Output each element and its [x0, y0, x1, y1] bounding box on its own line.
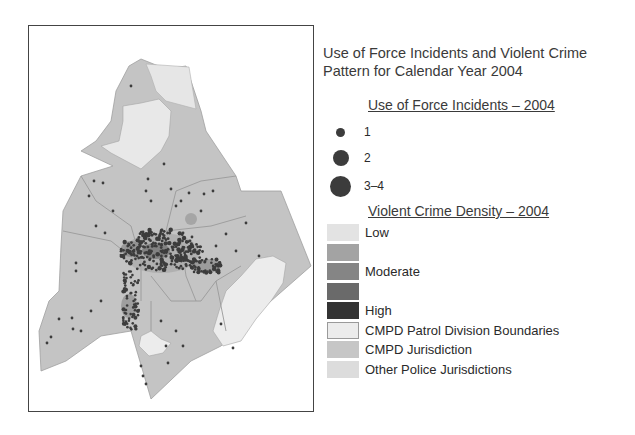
incident-legend-item: 1: [323, 119, 633, 145]
incident-dot-small-icon: [336, 128, 345, 137]
other-jurisdiction-legend-label: Other Police Jurisdictions: [365, 362, 512, 377]
map-title: Use of Force Incidents and Violent Crime…: [323, 44, 633, 80]
map-frame: [28, 25, 314, 412]
incident-legend-item: 2: [323, 145, 633, 171]
density-legend-label: Low: [365, 225, 389, 240]
boundary-legend-label: CMPD Patrol Division Boundaries: [365, 323, 559, 338]
density-heading: Violent Crime Density – 2004: [368, 203, 633, 219]
boundary-legend-item: CMPD Patrol Division Boundaries: [323, 321, 633, 341]
other-jurisdiction-swatch: [327, 361, 359, 378]
incident-legend-label: 1: [364, 125, 371, 139]
incidents-heading: Use of Force Incidents – 2004: [368, 97, 633, 113]
density-low-swatch: [327, 224, 359, 241]
density-legend: Low Moderate High CMPD Patrol Division B…: [323, 223, 633, 379]
incident-dot-medium-icon: [333, 150, 349, 166]
incident-dot-large-icon: [330, 176, 351, 197]
density-legend-item: Low: [323, 223, 633, 243]
map-legend: Use of Force Incidents and Violent Crime…: [323, 44, 633, 379]
cmpd-jurisdiction-area: [39, 59, 311, 399]
other-jurisdiction-legend-item: Other Police Jurisdictions: [323, 360, 633, 380]
density-legend-label: Moderate: [365, 264, 420, 279]
density-legend-item: [323, 282, 633, 302]
title-line-1: Use of Force Incidents and Violent Crime: [323, 45, 587, 61]
cmpd-jurisdiction-swatch: [327, 341, 359, 358]
county-map: [29, 26, 315, 413]
density-legend-item: [323, 243, 633, 263]
incident-legend-label: 3–4: [364, 179, 384, 193]
density-moderate-high-swatch: [327, 283, 359, 300]
incident-legend-item: 3–4: [323, 171, 633, 201]
boundary-swatch: [327, 322, 359, 339]
density-moderate-swatch: [327, 263, 359, 280]
incident-legend-label: 2: [364, 151, 371, 165]
incidents-legend: 1 2 3–4: [323, 119, 633, 201]
density-legend-item: Moderate: [323, 262, 633, 282]
jurisdiction-legend-item: CMPD Jurisdiction: [323, 340, 633, 360]
density-high-swatch: [327, 302, 359, 319]
density-low-moderate-swatch: [327, 244, 359, 261]
jurisdiction-legend-label: CMPD Jurisdiction: [365, 342, 472, 357]
density-legend-label: High: [365, 303, 392, 318]
density-legend-item: High: [323, 301, 633, 321]
title-line-2: Pattern for Calendar Year 2004: [323, 63, 523, 79]
